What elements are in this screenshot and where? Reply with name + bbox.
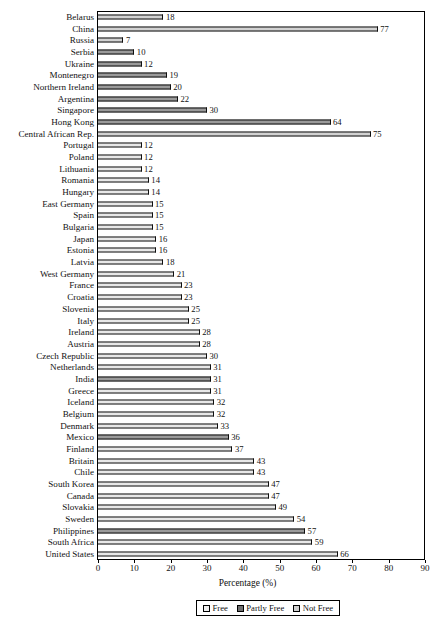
bar-track: 19 — [98, 69, 425, 81]
bar — [98, 447, 232, 452]
bar-track: 18 — [98, 11, 425, 23]
category-label: Croatia — [0, 292, 94, 302]
bar-value-label: 15 — [153, 223, 164, 232]
bar-value-label: 12 — [142, 59, 153, 68]
x-axis-tick-label: 30 — [203, 563, 212, 574]
bar-value-label: 12 — [142, 152, 153, 161]
category-label: Italy — [0, 316, 94, 326]
bar-track: 28 — [98, 326, 425, 338]
bar-track: 23 — [98, 280, 425, 292]
bar-row: South Africa59 — [0, 537, 443, 549]
chart-legend: Free Partly Free Not Free — [196, 600, 340, 616]
category-label: Northern Ireland — [0, 82, 94, 92]
bar — [98, 236, 156, 241]
bar-track: 15 — [98, 221, 425, 233]
bar — [98, 49, 134, 54]
bar-value-label: 19 — [167, 71, 178, 80]
bar-value-label: 33 — [218, 421, 229, 430]
bar-track: 7 — [98, 34, 425, 46]
bar-track: 25 — [98, 315, 425, 327]
bar-row: India31 — [0, 373, 443, 385]
bar-value-label: 32 — [214, 398, 225, 407]
bar-row: Sweden54 — [0, 513, 443, 525]
bar — [98, 213, 153, 218]
category-label: Austria — [0, 339, 94, 349]
bar-value-label: 14 — [149, 176, 160, 185]
bar-row: Latvia18 — [0, 256, 443, 268]
legend-swatch-not-free-icon — [293, 605, 300, 612]
bar-track: 14 — [98, 175, 425, 187]
bar — [98, 201, 153, 206]
bar — [98, 435, 229, 440]
bar-row: Portugal12 — [0, 139, 443, 151]
bar-track: 16 — [98, 233, 425, 245]
bar-row: France23 — [0, 280, 443, 292]
category-label: Britain — [0, 456, 94, 466]
bar — [98, 341, 200, 346]
bar-value-label: 54 — [294, 515, 305, 524]
legend-item-not-free: Not Free — [293, 604, 333, 613]
category-label: Ireland — [0, 327, 94, 337]
category-label: Mexico — [0, 432, 94, 442]
bar-row: Mexico36 — [0, 432, 443, 444]
bar-track: 43 — [98, 467, 425, 479]
bar-value-label: 49 — [276, 503, 287, 512]
bar-value-label: 12 — [142, 164, 153, 173]
category-label: Belgium — [0, 409, 94, 419]
bar-row: Montenegro19 — [0, 69, 443, 81]
category-label: Bulgaria — [0, 222, 94, 232]
bar-value-label: 31 — [211, 386, 222, 395]
bar-track: 31 — [98, 373, 425, 385]
bar-track: 12 — [98, 139, 425, 151]
bar-value-label: 30 — [207, 106, 218, 115]
bar — [98, 423, 218, 428]
bar-row: South Korea47 — [0, 478, 443, 490]
bar-row: Netherlands31 — [0, 361, 443, 373]
bar-row: Hungary14 — [0, 186, 443, 198]
bar-value-label: 23 — [182, 281, 193, 290]
category-label: Chile — [0, 467, 94, 477]
bar-track: 77 — [98, 23, 425, 35]
bar — [98, 330, 200, 335]
bar-row: Denmark33 — [0, 420, 443, 432]
bar-value-label: 64 — [331, 117, 342, 126]
category-label: Russia — [0, 35, 94, 45]
bar-track: 14 — [98, 186, 425, 198]
bar — [98, 388, 211, 393]
bar — [98, 154, 142, 159]
category-label: Latvia — [0, 257, 94, 267]
bar-row: Italy25 — [0, 315, 443, 327]
bar-row: Northern Ireland20 — [0, 81, 443, 93]
x-axis-title-text: Percentage (%) — [167, 578, 277, 588]
bar — [98, 38, 123, 43]
legend-item-free: Free — [203, 604, 228, 613]
category-label: Lithuania — [0, 164, 94, 174]
bar-row: Singapore30 — [0, 104, 443, 116]
bar-track: 64 — [98, 116, 425, 128]
horizontal-bar-chart: Belarus18China77Russia7Serbia10Ukraine12… — [0, 0, 443, 626]
legend-swatch-partly-free-icon — [237, 605, 244, 612]
bar — [98, 482, 269, 487]
bar-row: Belgium32 — [0, 408, 443, 420]
bar — [98, 505, 276, 510]
bar-row: Lithuania12 — [0, 163, 443, 175]
bar-track: 20 — [98, 81, 425, 93]
category-label: South Korea — [0, 479, 94, 489]
bar-track: 21 — [98, 268, 425, 280]
bar-track: 32 — [98, 408, 425, 420]
category-label: Finland — [0, 444, 94, 454]
category-label: Hungary — [0, 187, 94, 197]
bar-track: 30 — [98, 104, 425, 116]
bar-track: 54 — [98, 513, 425, 525]
bar — [98, 108, 207, 113]
bar-value-label: 18 — [163, 12, 174, 21]
bar-row: Philippines57 — [0, 525, 443, 537]
bar-track: 43 — [98, 455, 425, 467]
bar-row: Slovakia49 — [0, 502, 443, 514]
bar-value-label: 12 — [142, 141, 153, 150]
bar — [98, 493, 269, 498]
bar — [98, 248, 156, 253]
bar — [98, 353, 207, 358]
bar-track: 23 — [98, 291, 425, 303]
bar-track: 36 — [98, 432, 425, 444]
